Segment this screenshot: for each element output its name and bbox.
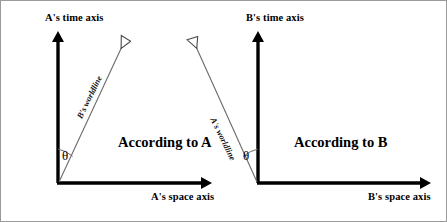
a-caption: According to A (118, 135, 211, 150)
panel-according-to-a: A's time axis A's space axis θ According… (1, 1, 225, 222)
a-space-axis-label: A's space axis (151, 192, 214, 203)
b-theta-label: θ (243, 149, 249, 162)
panel-a-graphics (1, 1, 225, 222)
b-caption: According to B (294, 135, 387, 150)
a-theta-label: θ (62, 149, 68, 162)
figure-canvas: A's time axis A's space axis θ According… (0, 0, 447, 222)
panel-according-to-b: B's time axis B's space axis θ According… (224, 1, 447, 222)
b-space-axis-label: B's space axis (368, 192, 431, 203)
b-time-axis-label: B's time axis (246, 13, 304, 24)
b-worldline (59, 40, 125, 182)
a-time-axis-label: A's time axis (45, 13, 103, 24)
panel-b-graphics (224, 1, 447, 222)
